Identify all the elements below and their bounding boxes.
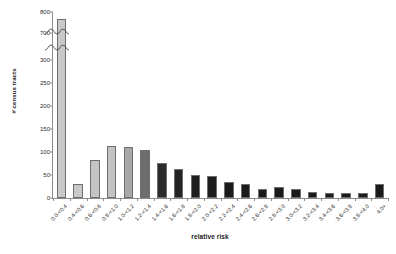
bar	[224, 182, 233, 198]
x-axis-tick-mark	[154, 198, 155, 201]
x-axis-tick-mark	[70, 198, 71, 201]
x-axis-tick-mark	[355, 198, 356, 201]
bar	[107, 146, 116, 198]
bar	[325, 193, 334, 198]
x-axis-tick-mark	[87, 198, 88, 201]
bar	[140, 150, 149, 198]
bar	[341, 193, 350, 198]
x-axis-tick-label: 3.0-<3.2	[284, 203, 303, 222]
bar	[90, 160, 99, 198]
y-axis-tick-label: 50	[0, 172, 54, 178]
bar	[241, 184, 250, 198]
x-axis-tick-label: 3.4-<3.6	[318, 203, 337, 222]
bar	[73, 184, 82, 198]
x-axis-tick-mark	[137, 198, 138, 201]
bar	[375, 184, 384, 198]
x-axis-tick-label: 1.4-<1.6	[150, 203, 169, 222]
bar	[174, 169, 183, 198]
x-axis-tick-mark	[103, 198, 104, 201]
y-axis-tick-label: 300	[0, 57, 54, 63]
x-axis-tick-label: 0.6-<0.8	[83, 203, 102, 222]
x-axis-tick-mark	[254, 198, 255, 201]
x-axis-tick-label: 2.6-<2.8	[251, 203, 270, 222]
x-axis-tick-label: 0.0-<0.4	[50, 203, 69, 222]
x-axis-tick-label: 3.6-<3.8	[334, 203, 353, 222]
x-axis-tick-mark	[371, 198, 372, 201]
x-axis-tick-label: 2.4-<2.6	[234, 203, 253, 222]
bar-chart: # census tracts 050100150200250300700800…	[0, 0, 396, 254]
x-axis-tick-mark	[288, 198, 289, 201]
x-axis-tick-label: 2.0-<2.2	[200, 203, 219, 222]
x-axis-tick-mark	[53, 198, 54, 201]
x-axis-tick-label: 0.4-<0.6	[66, 203, 85, 222]
axis-break-lower-icon	[44, 42, 70, 54]
x-axis-tick-label: 1.6-<1.8	[167, 203, 186, 222]
bar	[207, 176, 216, 198]
x-axis-tick-mark	[388, 198, 389, 201]
x-axis-tick-mark	[321, 198, 322, 201]
y-axis-tick-label: 100	[0, 149, 54, 155]
x-axis-tick-mark	[237, 198, 238, 201]
x-axis-tick-label: 1.8-<2.0	[184, 203, 203, 222]
bar	[291, 189, 300, 198]
y-axis-tick-label: 150	[0, 126, 54, 132]
y-axis-tick-label: 200	[0, 103, 54, 109]
x-axis-tick-label: 0.8-<1.0	[100, 203, 119, 222]
bar	[157, 163, 166, 198]
bars-container	[53, 12, 388, 198]
x-axis-tick-label: 1.2-<1.4	[133, 203, 152, 222]
y-axis-title: # census tracts	[11, 51, 17, 131]
x-axis-tick-mark	[271, 198, 272, 201]
x-axis-tick-label: 3.8-<4.0	[351, 203, 370, 222]
x-axis-tick-mark	[221, 198, 222, 201]
y-axis-tick-label: 250	[0, 80, 54, 86]
x-axis-tick-mark	[187, 198, 188, 201]
x-axis-tick-label: 4.0+	[375, 203, 387, 215]
bar	[308, 192, 317, 198]
x-axis-tick-mark	[120, 198, 121, 201]
x-axis-tick-label: 1.0-<1.2	[117, 203, 136, 222]
bar	[191, 175, 200, 198]
bar	[124, 147, 133, 198]
x-axis-title: relative risk	[150, 233, 270, 240]
x-axis-tick-label: 2.8-<3.0	[267, 203, 286, 222]
x-axis-tick-mark	[170, 198, 171, 201]
y-axis-tick-label: 800	[0, 9, 54, 15]
bar	[258, 189, 267, 198]
x-axis-tick-mark	[204, 198, 205, 201]
x-axis-tick-label: 2.2-<2.4	[217, 203, 236, 222]
bar	[274, 187, 283, 199]
y-axis-tick-label: 0	[0, 195, 54, 201]
x-axis-tick-mark	[304, 198, 305, 201]
x-axis-tick-mark	[338, 198, 339, 201]
bar	[358, 193, 367, 198]
x-axis-tick-label: 3.2-<3.4	[301, 203, 320, 222]
axis-break-upper-icon	[44, 26, 70, 38]
